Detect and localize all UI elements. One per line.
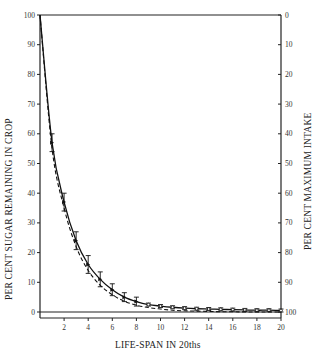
right-y-tick-label: 20 xyxy=(285,70,293,79)
dashed-series xyxy=(40,15,281,312)
x-tick-label: 6 xyxy=(110,323,114,332)
x-tick-label: 20 xyxy=(277,323,285,332)
y-tick-label: 100 xyxy=(24,11,36,20)
y-tick-label: 0 xyxy=(31,308,35,317)
x-tick-label: 8 xyxy=(135,323,139,332)
right-y-tick-label: 30 xyxy=(285,100,293,109)
right-y-tick-label: 100 xyxy=(285,308,297,317)
left-y-axis: 0102030405060708090100 xyxy=(24,11,40,317)
x-tick-label: 16 xyxy=(229,323,237,332)
y-tick-label: 90 xyxy=(28,40,36,49)
x-axis-title: LIFE-SPAN IN 20ths xyxy=(115,340,201,350)
right-y-tick-label: 90 xyxy=(285,278,293,287)
plot-frame xyxy=(40,15,281,318)
x-tick-label: 18 xyxy=(253,323,261,332)
y-tick-label: 10 xyxy=(28,278,36,287)
y-tick-label: 80 xyxy=(28,70,36,79)
right-y-tick-label: 50 xyxy=(285,159,293,168)
chart: 0102030405060708090100 01020304050607080… xyxy=(0,0,321,358)
y-tick-label: 20 xyxy=(28,248,36,257)
x-axis: 2468101214161820 xyxy=(62,318,285,332)
y-tick-label: 30 xyxy=(28,218,36,227)
right-y-axis-title: PER CENT MAXIMUM INTAKE xyxy=(303,113,313,250)
series-layer xyxy=(40,15,284,312)
x-tick-label: 12 xyxy=(181,323,189,332)
x-tick-label: 2 xyxy=(62,323,66,332)
solid-series xyxy=(40,15,284,312)
x-tick-label: 14 xyxy=(205,323,213,332)
y-tick-label: 70 xyxy=(28,100,36,109)
right-y-tick-label: 10 xyxy=(285,40,293,49)
x-tick-label: 10 xyxy=(157,323,165,332)
y-tick-label: 60 xyxy=(28,129,36,138)
right-y-tick-label: 80 xyxy=(285,248,293,257)
right-y-tick-label: 0 xyxy=(285,11,289,20)
right-y-tick-label: 70 xyxy=(285,218,293,227)
y-tick-label: 40 xyxy=(28,189,36,198)
left-y-axis-title: PER CENT SUGAR REMAINING IN CROP xyxy=(4,118,14,300)
right-y-tick-label: 60 xyxy=(285,189,293,198)
y-tick-label: 50 xyxy=(28,159,36,168)
x-tick-label: 4 xyxy=(86,323,90,332)
right-y-tick-label: 40 xyxy=(285,129,293,138)
